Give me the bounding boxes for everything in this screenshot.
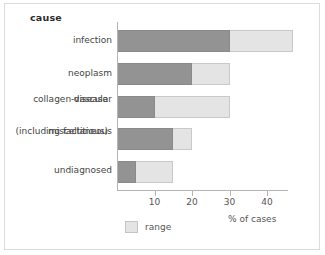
category-label-line: infection <box>4 35 112 46</box>
bar-row[interactable] <box>117 128 192 150</box>
bar-row[interactable] <box>117 63 230 85</box>
legend-swatch-range <box>125 221 138 233</box>
y-axis-line <box>117 22 118 190</box>
bar-row[interactable] <box>117 30 293 52</box>
x-axis-tick <box>192 191 193 196</box>
legend-label-range: range <box>145 222 171 232</box>
x-axis-tick-label: 40 <box>261 197 272 207</box>
category-label-miscellaneous: miscellaneous (including factitious) <box>0 126 112 137</box>
bar-value-segment <box>117 161 136 183</box>
x-axis-tick-label: 20 <box>186 197 197 207</box>
x-axis-tick <box>230 191 231 196</box>
category-label-line: neoplasm <box>4 68 112 79</box>
category-label-collagen-vascular-disease: collagen-vascular disease <box>0 94 112 105</box>
bar-row[interactable] <box>117 161 173 183</box>
x-axis-tick <box>155 191 156 196</box>
x-axis-tick-label: 10 <box>149 197 160 207</box>
x-axis-tick-label: 30 <box>224 197 235 207</box>
bar-row[interactable] <box>117 96 230 118</box>
x-axis-line <box>117 190 288 191</box>
category-label-line: disease <box>0 94 108 105</box>
bar-value-segment <box>117 128 173 150</box>
chart-title: cause <box>30 12 62 23</box>
category-label-line: undiagnosed <box>4 165 112 176</box>
category-label-line: (including factitious) <box>0 126 108 137</box>
x-axis-caption: % of cases <box>228 214 276 224</box>
chart-legend: range <box>125 221 171 233</box>
chart-figure: cause infection neoplasm collagen-vascul… <box>0 0 325 255</box>
bar-value-segment <box>117 30 230 52</box>
x-axis-tick <box>267 191 268 196</box>
bar-value-segment <box>117 96 155 118</box>
bar-value-segment <box>117 63 192 85</box>
